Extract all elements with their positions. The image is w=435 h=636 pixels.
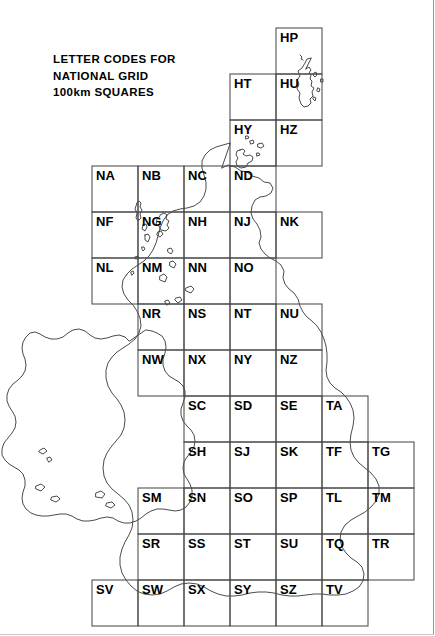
grid-square-nw[interactable]: NW bbox=[138, 350, 184, 396]
grid-square-nd[interactable]: ND bbox=[230, 166, 276, 212]
grid-square-tl[interactable]: TL bbox=[322, 488, 368, 534]
grid-square-label: NH bbox=[188, 214, 207, 229]
grid-square-label: SM bbox=[142, 490, 162, 505]
grid-square-label: SX bbox=[188, 582, 206, 597]
grid-square-label: NM bbox=[142, 260, 162, 275]
grid-square-nu[interactable]: NU bbox=[276, 304, 322, 350]
grid-square-label: HU bbox=[280, 76, 299, 91]
grid-square-nm[interactable]: NM bbox=[138, 258, 184, 304]
grid-square-label: SC bbox=[188, 398, 207, 413]
grid-square-nx[interactable]: NX bbox=[184, 350, 230, 396]
grid-square-ta[interactable]: TA bbox=[322, 396, 368, 442]
grid-square-label: SH bbox=[188, 444, 206, 459]
grid-square-sy[interactable]: SY bbox=[230, 580, 276, 626]
grid-square-tr[interactable]: TR bbox=[368, 534, 414, 580]
grid-square-nk[interactable]: NK bbox=[276, 212, 322, 258]
grid-square-nz[interactable]: NZ bbox=[276, 350, 322, 396]
grid-square-label: TM bbox=[372, 490, 391, 505]
grid-square-label: HY bbox=[234, 122, 252, 137]
grid-square-label: SK bbox=[280, 444, 299, 459]
grid-square-hp[interactable]: HP bbox=[276, 28, 322, 74]
grid-square-sh[interactable]: SH bbox=[184, 442, 230, 488]
grid-square-label: NG bbox=[142, 214, 162, 229]
grid-square-label: NL bbox=[96, 260, 113, 275]
grid-square-label: TA bbox=[326, 398, 343, 413]
grid-square-label: ND bbox=[234, 168, 253, 183]
national-grid-svg: HPHTHUHYHZNANBNCNDNFNGNHNJNKNLNMNNNONRNS… bbox=[0, 0, 435, 636]
grid-square-na[interactable]: NA bbox=[92, 166, 138, 212]
grid-square-label: HZ bbox=[280, 122, 297, 137]
grid-square-so[interactable]: SO bbox=[230, 488, 276, 534]
grid-square-sd[interactable]: SD bbox=[230, 396, 276, 442]
grid-square-sk[interactable]: SK bbox=[276, 442, 322, 488]
grid-square-tv[interactable]: TV bbox=[322, 580, 368, 626]
grid-square-label: TG bbox=[372, 444, 390, 459]
grid-square-label: NN bbox=[188, 260, 207, 275]
grid-square-ns[interactable]: NS bbox=[184, 304, 230, 350]
grid-square-tg[interactable]: TG bbox=[368, 442, 414, 488]
grid-square-nh[interactable]: NH bbox=[184, 212, 230, 258]
grid-square-su[interactable]: SU bbox=[276, 534, 322, 580]
grid-square-tm[interactable]: TM bbox=[368, 488, 414, 534]
grid-square-label: NO bbox=[234, 260, 254, 275]
grid-square-hz[interactable]: HZ bbox=[276, 120, 322, 166]
grid-square-ht[interactable]: HT bbox=[230, 74, 276, 120]
grid-square-sj[interactable]: SJ bbox=[230, 442, 276, 488]
grid-square-se[interactable]: SE bbox=[276, 396, 322, 442]
grid-square-label: NW bbox=[142, 352, 164, 367]
grid-square-tq[interactable]: TQ bbox=[322, 534, 368, 580]
grid-square-label: SS bbox=[188, 536, 206, 551]
grid-square-label: SP bbox=[280, 490, 298, 505]
grid-square-label: SZ bbox=[280, 582, 297, 597]
grid-square-label: SE bbox=[280, 398, 298, 413]
grid-square-sz[interactable]: SZ bbox=[276, 580, 322, 626]
grid-square-label: SR bbox=[142, 536, 161, 551]
grid-square-label: NB bbox=[142, 168, 161, 183]
grid-square-nr[interactable]: NR bbox=[138, 304, 184, 350]
grid-square-sr[interactable]: SR bbox=[138, 534, 184, 580]
grid-square-nb[interactable]: NB bbox=[138, 166, 184, 212]
grid-square-label: SO bbox=[234, 490, 253, 505]
grid-square-nl[interactable]: NL bbox=[92, 258, 138, 304]
grid-square-label: SW bbox=[142, 582, 164, 597]
grid-square-label: TL bbox=[326, 490, 342, 505]
grid-square-label: NT bbox=[234, 306, 251, 321]
grid-square-label: HT bbox=[234, 76, 251, 91]
grid-square-label: SY bbox=[234, 582, 252, 597]
grid-square-label: SJ bbox=[234, 444, 250, 459]
grid-square-label: NK bbox=[280, 214, 299, 229]
grid-square-label: SV bbox=[96, 582, 114, 597]
grid-square-label: NX bbox=[188, 352, 206, 367]
grid-square-label: ST bbox=[234, 536, 251, 551]
grid-square-sx[interactable]: SX bbox=[184, 580, 230, 626]
grid-square-nn[interactable]: NN bbox=[184, 258, 230, 304]
grid-square-sw[interactable]: SW bbox=[138, 580, 184, 626]
grid-square-nt[interactable]: NT bbox=[230, 304, 276, 350]
grid-square-sp[interactable]: SP bbox=[276, 488, 322, 534]
grid-square-label: SD bbox=[234, 398, 252, 413]
grid-square-label: NZ bbox=[280, 352, 297, 367]
grid-square-label: NC bbox=[188, 168, 207, 183]
grid-square-ss[interactable]: SS bbox=[184, 534, 230, 580]
grid-square-label: TR bbox=[372, 536, 390, 551]
grid-square-ny[interactable]: NY bbox=[230, 350, 276, 396]
map-canvas: HPHTHUHYHZNANBNCNDNFNGNHNJNKNLNMNNNONRNS… bbox=[0, 0, 435, 636]
grid-square-label: NF bbox=[96, 214, 113, 229]
grid-square-label: TF bbox=[326, 444, 342, 459]
grid-square-no[interactable]: NO bbox=[230, 258, 276, 304]
grid-square-sv[interactable]: SV bbox=[92, 580, 138, 626]
grid-square-label: SU bbox=[280, 536, 298, 551]
grid-square-label: NA bbox=[96, 168, 115, 183]
map-page: LETTER CODES FOR NATIONAL GRID 100km SQU… bbox=[0, 0, 435, 636]
grid-square-nc[interactable]: NC bbox=[184, 166, 230, 212]
grid-square-label: NU bbox=[280, 306, 299, 321]
grid-square-label: TQ bbox=[326, 536, 344, 551]
grid-square-label: HP bbox=[280, 30, 298, 45]
grid-square-label: NY bbox=[234, 352, 252, 367]
grid-square-nf[interactable]: NF bbox=[92, 212, 138, 258]
grid-square-label: NJ bbox=[234, 214, 251, 229]
grid-square-sc[interactable]: SC bbox=[184, 396, 230, 442]
grid-square-label: TV bbox=[326, 582, 343, 597]
grid-square-sn[interactable]: SN bbox=[184, 488, 230, 534]
grid-square-st[interactable]: ST bbox=[230, 534, 276, 580]
